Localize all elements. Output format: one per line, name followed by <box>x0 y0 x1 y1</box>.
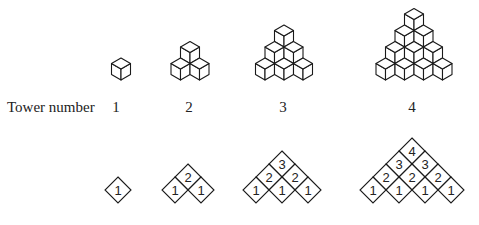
row-label-tower-number: Tower number <box>7 100 95 115</box>
diamond-cell-value: 2 <box>184 170 191 185</box>
diamond-cell-value: 1 <box>395 183 402 198</box>
tower-number-1: 1 <box>112 100 120 115</box>
cube-icon <box>433 58 452 80</box>
cube-tower-3 <box>256 25 313 80</box>
cube-icon <box>376 58 395 80</box>
diamond-cell-value: 1 <box>447 183 454 198</box>
diamond-cell-value: 3 <box>421 157 428 172</box>
cube-icon <box>395 58 414 80</box>
cube-icon <box>294 58 313 80</box>
diamond-cell-value: 2 <box>291 170 298 185</box>
diamond-cell-value: 2 <box>265 170 272 185</box>
cube-icon <box>190 58 209 80</box>
diamond-grid-1: 1 <box>105 177 131 203</box>
cube-tower-1 <box>112 58 131 80</box>
cube-tower-4 <box>376 9 452 81</box>
diamond-cell-value: 2 <box>408 170 415 185</box>
diamond-grid-2: 211 <box>162 164 214 203</box>
diamond-cell-value: 2 <box>382 170 389 185</box>
cube-icon <box>112 58 131 80</box>
diamond-cell-value: 1 <box>171 183 178 198</box>
tower-diagram: 12113221114332221111 Tower number 1 2 3 … <box>0 0 479 225</box>
diamond-cell-value: 1 <box>421 183 428 198</box>
diamond-cell-value: 1 <box>252 183 259 198</box>
cube-icon <box>275 58 294 80</box>
diamond-cell-value: 2 <box>434 170 441 185</box>
cube-icon <box>171 58 190 80</box>
diamond-cell-value: 4 <box>408 144 415 159</box>
cube-icon <box>414 58 433 80</box>
diamond-cell-value: 1 <box>197 183 204 198</box>
diamond-cell-value: 1 <box>304 183 311 198</box>
diamond-number-grids: 12113221114332221111 <box>105 138 464 203</box>
cube-tower-2 <box>171 42 209 81</box>
tower-number-3: 3 <box>279 100 287 115</box>
cube-icon <box>256 58 275 80</box>
diamond-grid-3: 322111 <box>243 151 321 203</box>
diamond-cell-value: 1 <box>369 183 376 198</box>
diamond-cell-value: 1 <box>278 183 285 198</box>
cube-towers <box>112 9 453 81</box>
diamond-cell-value: 1 <box>114 183 121 198</box>
tower-number-4: 4 <box>408 100 416 115</box>
diamond-grid-4: 4332221111 <box>360 138 464 203</box>
tower-number-2: 2 <box>185 100 193 115</box>
diamond-cell-value: 3 <box>278 157 285 172</box>
diamond-cell-value: 3 <box>395 157 402 172</box>
